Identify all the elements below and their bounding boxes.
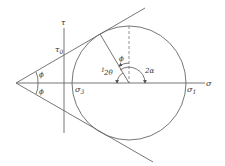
lower-failure-envelope: [16, 83, 153, 162]
two-alpha-label: 2α: [144, 67, 154, 75]
mohr-circle-diagram: τ σ τ0 σ3 σ1 ϕ ϕ ϕ 1 2θ 2α: [0, 0, 225, 166]
phi-upper-label: ϕ: [39, 71, 44, 79]
phi-upper-arc: [36, 72, 38, 83]
two-alpha-arc: [120, 67, 145, 83]
tau-axis-label: τ: [61, 18, 66, 27]
tau0-label: τ0: [55, 45, 63, 55]
two-theta-label: 2θ: [103, 69, 113, 77]
two-theta-arc: [117, 73, 123, 83]
phi-center-arc: [119, 63, 129, 66]
phi-center-label: ϕ: [119, 55, 124, 63]
upper-failure-envelope: [16, 8, 145, 83]
sigma-axis-label: σ: [206, 79, 212, 88]
sigma3-label: σ3: [75, 85, 84, 95]
phi-lower-label: ϕ: [39, 88, 44, 96]
phi-lower-arc: [36, 83, 38, 94]
sigma1-label: σ1: [187, 85, 196, 95]
